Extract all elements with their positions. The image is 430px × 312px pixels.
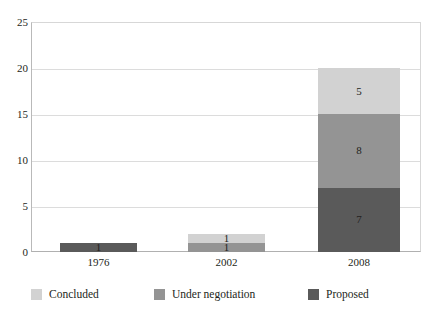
y-tick-label: 10 [2,155,28,166]
y-tick-label: 0 [2,247,28,258]
x-tick-label-1976: 1976 [60,256,137,268]
x-axis: 1976 2002 2008 [31,256,421,274]
bar-value-label: 8 [356,145,362,156]
y-tick-label: 20 [2,63,28,74]
legend-item-under-negotiation[interactable]: Under negotiation [154,286,255,302]
bar-segment-concluded[interactable]: 1 [188,234,265,243]
legend-label-concluded: Concluded [49,288,99,301]
bar-value-label: 1 [96,242,102,253]
legend-swatch-concluded [31,289,42,300]
bar-value-label: 1 [224,233,230,244]
stacked-bar-chart: 25 20 15 10 5 0 1 1 1 [0,0,430,312]
y-tick-label: 15 [2,109,28,120]
bar-group-2008: 7 8 5 [318,68,400,252]
bar-segment-proposed[interactable]: 7 [318,188,400,252]
legend-label-under-negotiation: Under negotiation [172,288,255,301]
legend-swatch-proposed [308,289,319,300]
bars-layer: 1 1 1 7 8 5 [31,22,421,252]
chart-legend: Concluded Under negotiation Proposed [31,286,421,304]
bar-segment-under-negotiation[interactable]: 8 [318,114,400,188]
bar-segment-proposed[interactable]: 1 [60,243,137,252]
legend-item-proposed[interactable]: Proposed [308,286,369,302]
bar-segment-concluded[interactable]: 5 [318,68,400,114]
bar-value-label: 5 [356,86,362,97]
legend-swatch-under-negotiation [154,289,165,300]
bar-group-1976: 1 [60,243,137,252]
x-tick-label-2008: 2008 [318,256,400,268]
y-tick-label: 25 [2,17,28,28]
y-axis: 25 20 15 10 5 0 [0,22,28,252]
bar-group-2002: 1 1 [188,234,265,252]
bar-segment-proposed[interactable]: 1 [188,243,265,252]
y-tick-label: 5 [2,201,28,212]
x-tick-label-2002: 2002 [188,256,265,268]
bar-value-label: 7 [356,214,362,225]
legend-item-concluded[interactable]: Concluded [31,286,99,302]
legend-label-proposed: Proposed [326,288,369,301]
